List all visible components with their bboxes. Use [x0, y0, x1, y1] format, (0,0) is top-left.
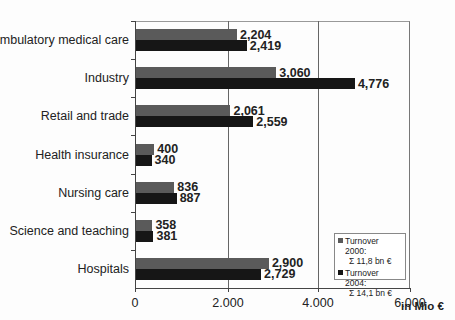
x-tick — [135, 288, 136, 292]
value-label: 887 — [180, 191, 201, 205]
legend-item-2000: Turnover 2000: Σ 11,8 bn € — [338, 236, 402, 266]
x-tick-label: 4.000 — [302, 296, 333, 310]
bar-2004-3 — [136, 155, 152, 166]
legend-swatch-2000 — [338, 238, 343, 243]
y-tick — [131, 135, 135, 136]
bar-2004-4 — [136, 193, 177, 204]
x-tick — [318, 288, 319, 292]
category-label: Science and teaching — [9, 224, 129, 238]
x-axis-unit: in Mio € — [401, 300, 444, 312]
bar-2000-3 — [136, 144, 154, 155]
y-tick — [131, 97, 135, 98]
bar-2000-0 — [136, 29, 237, 40]
legend-swatch-2004 — [338, 270, 343, 275]
category-label: Retail and trade — [41, 109, 129, 123]
bar-2000-4 — [136, 182, 174, 193]
value-label: 2,729 — [264, 267, 295, 281]
bar-2000-5 — [136, 220, 152, 231]
legend-label: Turnover 2004: — [345, 268, 402, 288]
bar-2004-0 — [136, 40, 247, 51]
value-label: 4,776 — [358, 77, 389, 91]
y-tick — [131, 21, 135, 22]
gridline-4000 — [318, 21, 319, 288]
x-tick-label: 0 — [132, 296, 139, 310]
y-tick — [131, 250, 135, 251]
category-label: Industry — [85, 71, 129, 85]
legend-label: Turnover 2000: — [345, 236, 402, 256]
legend: Turnover 2000: Σ 11,8 bn € Turnover 2004… — [334, 233, 406, 280]
x-tick — [410, 288, 411, 292]
category-label: Hospitals — [78, 262, 129, 276]
bar-2000-1 — [136, 67, 276, 78]
legend-sum: Σ 14,1 bn € — [345, 288, 402, 298]
value-label: 2,559 — [256, 115, 287, 129]
bar-2004-6 — [136, 269, 261, 280]
bar-2000-6 — [136, 258, 269, 269]
y-tick — [131, 212, 135, 213]
bar-2000-2 — [136, 105, 230, 116]
value-label: 381 — [156, 229, 177, 243]
category-label: Ambulatory medical care — [0, 33, 129, 47]
legend-sum: Σ 11,8 bn € — [345, 256, 402, 266]
category-label: Health insurance — [35, 148, 129, 162]
bar-2004-5 — [136, 231, 153, 242]
value-label: 340 — [155, 153, 176, 167]
y-tick — [131, 59, 135, 60]
value-label: 2,419 — [250, 39, 281, 53]
legend-item-2004: Turnover 2004: Σ 14,1 bn € — [338, 268, 402, 298]
gridline-2000 — [228, 21, 229, 288]
y-tick — [131, 174, 135, 175]
bar-2004-1 — [136, 78, 355, 89]
bar-2004-2 — [136, 116, 253, 127]
x-tick — [228, 288, 229, 292]
x-tick-label: 2.000 — [212, 296, 243, 310]
category-label: Nursing care — [58, 186, 129, 200]
